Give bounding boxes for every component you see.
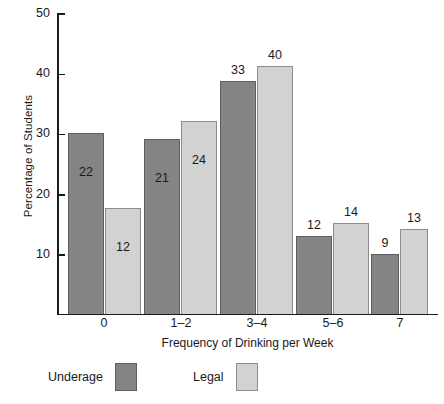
bar-label-legal-4: 13 <box>394 211 434 225</box>
bar-label-underage-4: 9 <box>365 236 405 250</box>
bar-legal-2[interactable] <box>257 66 293 315</box>
bar-label-legal-1: 24 <box>179 153 219 167</box>
legend-label-underage: Underage <box>48 370 103 384</box>
bar-label-underage-3: 12 <box>294 218 334 232</box>
bar-legal-0[interactable] <box>105 208 141 315</box>
bar-label-legal-2: 40 <box>255 48 295 62</box>
bar-underage-4[interactable] <box>371 254 399 315</box>
bar-underage-0[interactable] <box>68 133 104 315</box>
bar-legal-3[interactable] <box>333 223 369 315</box>
legend-item-underage[interactable]: Underage <box>48 362 137 392</box>
legend-swatch-underage-icon <box>115 363 137 391</box>
bar-underage-1[interactable] <box>144 139 180 315</box>
bar-label-legal-3: 14 <box>331 205 371 219</box>
bar-legal-4[interactable] <box>400 229 428 315</box>
bar-legal-1[interactable] <box>181 121 217 315</box>
legend-swatch-legal-icon <box>236 363 258 391</box>
chart-legend: Underage Legal <box>0 362 444 396</box>
x-tick-label-1: 1–2 <box>141 316 221 330</box>
legend-label-legal: Legal <box>193 370 224 384</box>
bar-label-legal-0: 12 <box>103 240 143 254</box>
bar-underage-3[interactable] <box>296 236 332 315</box>
bar-label-underage-2: 33 <box>218 63 258 77</box>
x-axis-line <box>57 314 438 316</box>
x-axis-title: Frequency of Drinking per Week <box>57 336 438 350</box>
x-tick-label-2: 3–4 <box>217 316 297 330</box>
bar-label-underage-0: 22 <box>66 165 106 179</box>
legend-item-legal[interactable]: Legal <box>193 362 258 392</box>
bar-label-underage-1: 21 <box>142 171 182 185</box>
x-tick-label-0: 0 <box>64 316 144 330</box>
x-tick-label-4: 7 <box>360 316 440 330</box>
bar-chart-figure: Percentage of Students 50 40 30 20 10 22… <box>0 0 444 404</box>
bar-underage-2[interactable] <box>220 81 256 315</box>
